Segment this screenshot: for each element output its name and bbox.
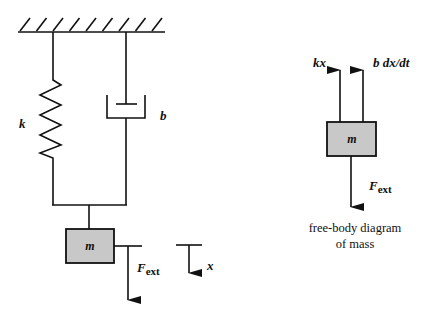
fixed-support — [18, 18, 165, 32]
fbd-external-force-label: Fext — [368, 178, 392, 195]
hatch-mark — [136, 18, 146, 31]
mass-label: m — [85, 239, 94, 253]
displacement-label: x — [206, 258, 214, 273]
hatch-mark — [103, 18, 113, 31]
external-force-label: Fext — [136, 260, 160, 277]
fbd-caption-line2: of mass — [336, 237, 375, 251]
hatch-mark — [119, 18, 129, 31]
mass: m — [66, 229, 114, 263]
free-body-diagram: kx b dx/dt m Fext free-body diagram of m… — [309, 55, 410, 251]
ceiling-hatching — [20, 18, 162, 31]
fbd-mass-label: m — [347, 132, 356, 146]
spring-coil — [40, 32, 61, 205]
displacement-indicator: x — [176, 245, 214, 273]
spring: k — [19, 32, 61, 205]
hatch-mark — [86, 18, 96, 31]
external-force: Fext — [114, 246, 160, 300]
hatch-mark — [37, 18, 47, 31]
damper-force-label: b dx/dt — [373, 55, 410, 70]
damping-coefficient-label: b — [160, 108, 167, 123]
mass-spring-damper-diagram: k b m Fext x kx b dx/dt m Fext free- — [0, 0, 425, 309]
spring-constant-label: k — [19, 116, 26, 131]
damper: b — [107, 32, 167, 205]
hatch-mark — [152, 18, 162, 31]
spring-force-label: kx — [313, 55, 327, 70]
hatch-mark — [53, 18, 63, 31]
hatch-mark — [20, 18, 30, 31]
fbd-caption-line1: free-body diagram — [309, 221, 402, 235]
hatch-mark — [70, 18, 80, 31]
